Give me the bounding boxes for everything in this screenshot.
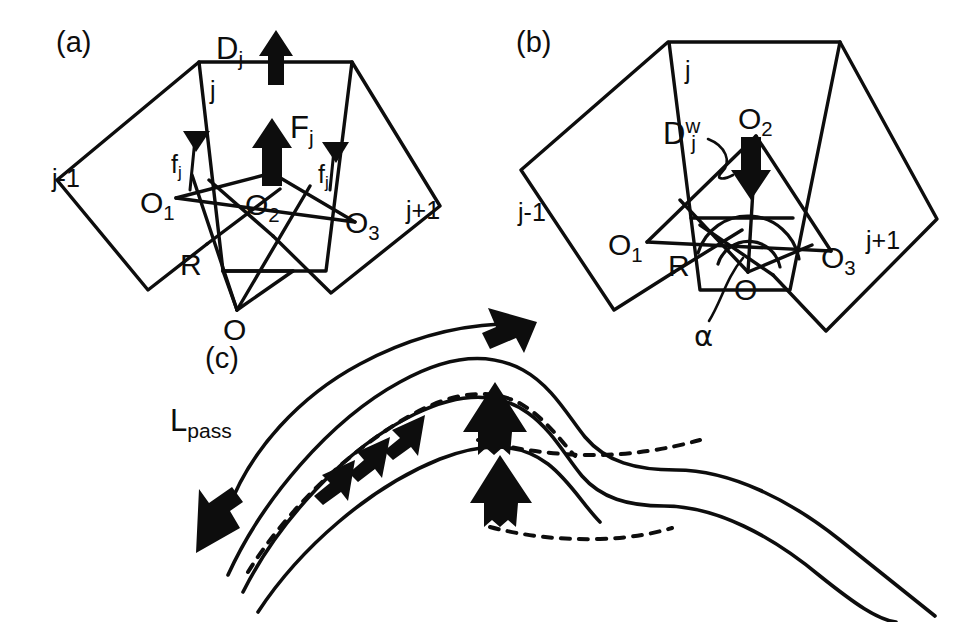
panel-b-node-o: O	[734, 275, 757, 305]
panel-b-angle-alpha: α	[694, 322, 713, 351]
panel-a-force-d-base: D	[216, 31, 238, 66]
panel-b-node-o3-sub: 3	[844, 257, 855, 279]
panel-b-force-dw-base: D	[663, 116, 685, 151]
panel-a-node-o3-sub: 3	[368, 222, 379, 244]
panel-c-length-l-base: L	[170, 403, 187, 438]
panel-b-label-j-minus-1: j-1	[518, 200, 546, 225]
panel-a-force-f-sub: j	[309, 126, 314, 149]
panel-a-node-o1-sub: 1	[163, 202, 174, 224]
panel-a-label-j: j	[210, 78, 216, 103]
fan-line-o2-right-b	[756, 136, 831, 251]
panel-c-geometry	[196, 308, 935, 622]
lpass-arrowhead-lower-c	[196, 487, 243, 553]
pivot-apex-left-a	[223, 271, 237, 310]
detachment-dashed-lower-c	[490, 527, 672, 539]
dw-leader-b	[708, 139, 733, 178]
panel-a-node-o3: O3	[345, 208, 380, 243]
panel-c-length-lpass: Lpass	[170, 405, 232, 441]
panel-a-node-o3-base: O	[345, 206, 368, 239]
panel-b-label-j-plus-1: j+1	[866, 228, 900, 253]
panel-b-node-o1: O1	[608, 230, 643, 265]
arrow-slip-1-c	[384, 415, 425, 460]
panel-a-node-o2: O2	[245, 190, 280, 225]
plate-j-plus-1-outline-a	[273, 62, 440, 293]
figure-canvas	[0, 0, 978, 622]
fan-line-o2-right-a	[272, 173, 355, 222]
panel-a-friction-right-sub: j	[325, 173, 329, 192]
panel-b-node-o2-base: O	[738, 102, 761, 135]
panel-b-node-o3: O3	[821, 243, 856, 278]
detachment-dashed-upper-c	[248, 394, 575, 572]
panel-a-friction-left-base: f	[171, 150, 178, 178]
panel-a-friction-right: fj	[318, 162, 329, 191]
lpass-arrow-shaft-c	[228, 324, 500, 510]
panel-a-force-d-sub: j	[238, 47, 243, 70]
panel-a-tag: (a)	[56, 28, 91, 57]
panel-b-geometry	[521, 42, 937, 331]
panel-a-node-o2-sub: 2	[268, 204, 279, 226]
panel-b-force-dw-j: Dwj	[663, 116, 696, 153]
panel-a-friction-left-sub: j	[178, 163, 182, 182]
panel-b-node-o1-base: O	[608, 228, 631, 261]
arrow-f-j-left-head-a	[183, 131, 210, 152]
figure-root: (a) j-1 j j+1 O1 O2 O3 R O Dj Fj fj fj (…	[0, 0, 978, 622]
panel-a-label-j-minus-1: j-1	[52, 166, 80, 191]
panel-a-friction-right-base: f	[318, 160, 325, 188]
panel-a-node-o: O	[223, 315, 246, 345]
panel-a-geometry	[57, 30, 440, 310]
arrow-d-j-a	[259, 30, 293, 85]
panel-a-force-f-j: Fj	[290, 112, 314, 148]
panel-b-tag: (b)	[516, 28, 551, 57]
panel-b-node-o1-sub: 1	[631, 244, 642, 266]
panel-a-node-o2-base: O	[245, 188, 268, 221]
plate-j-minus-1-outline-b	[521, 42, 674, 310]
arrow-f-j-right-head-a	[322, 142, 349, 163]
panel-a-force-d-j: Dj	[216, 33, 243, 69]
fold-lower-top-surface-c	[258, 447, 600, 612]
panel-c-tag: (c)	[205, 344, 239, 373]
arrow-dw-j-b	[731, 137, 771, 200]
panel-b-label-j: j	[685, 58, 691, 83]
panel-c-length-l-sub: pass	[187, 419, 232, 442]
panel-b-node-o3-base: O	[821, 241, 844, 274]
panel-b-node-o2-sub: 2	[761, 118, 772, 140]
arrow-uplift-lower-c	[470, 455, 532, 527]
panel-a-label-j-plus-1: j+1	[406, 198, 440, 223]
panel-a-node-r: R	[180, 250, 202, 280]
panel-a-friction-left: fj	[171, 152, 182, 181]
panel-a-node-o1: O1	[140, 188, 175, 223]
panel-b-force-dw-sub: j	[691, 131, 696, 154]
panel-a-force-f-base: F	[290, 110, 309, 145]
panel-b-node-o2: O2	[738, 104, 773, 139]
lpass-arrowhead-upper-c	[482, 308, 537, 353]
pivot-apex-right-a	[237, 271, 293, 310]
panel-b-node-r: R	[668, 251, 690, 281]
plate-j-plus-1-outline-b	[773, 42, 937, 331]
panel-a-node-o1-base: O	[140, 186, 163, 219]
